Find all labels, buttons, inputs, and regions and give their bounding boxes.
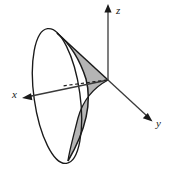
cone-diagram-svg <box>0 0 171 174</box>
cone-figure: z x y <box>0 0 171 174</box>
y-axis-arrowhead <box>143 113 153 121</box>
y-axis-line <box>108 80 147 116</box>
y-axis-label: y <box>156 118 161 129</box>
x-axis-arrowhead <box>22 93 32 100</box>
z-axis-arrowhead <box>104 4 111 13</box>
z-axis-label: z <box>116 5 120 16</box>
shaded-region <box>57 33 108 161</box>
x-axis-label: x <box>12 89 17 100</box>
